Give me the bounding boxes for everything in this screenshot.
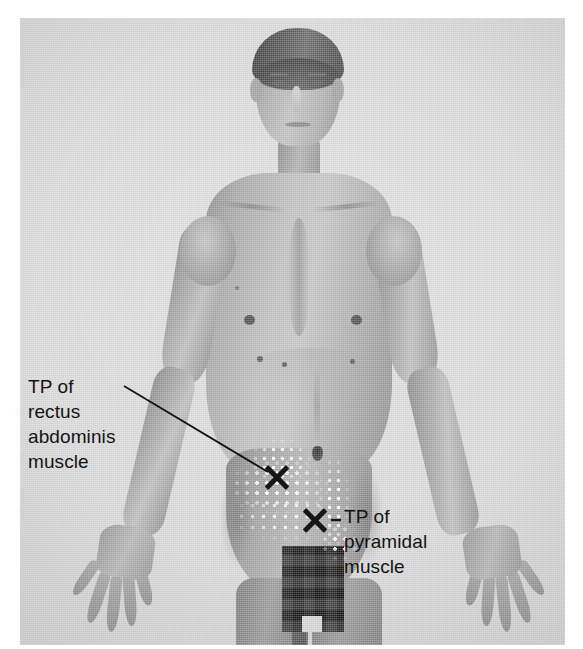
forearm-right <box>403 363 482 538</box>
nipple-left <box>244 315 255 325</box>
sternum-shadow <box>288 218 310 336</box>
censored-region-highlight <box>302 616 322 632</box>
hair <box>252 28 344 90</box>
eyebrow-left <box>270 73 288 76</box>
eye-right <box>309 80 324 86</box>
palm-right <box>461 522 524 581</box>
figure-root: TP of rectus abdominis muscle TP of pyra… <box>0 0 583 649</box>
hip-shadow-right <box>350 470 384 566</box>
nipple-right <box>351 315 362 325</box>
mouth <box>285 122 311 127</box>
subject-body <box>20 18 565 645</box>
finger <box>122 572 138 627</box>
skin-mole <box>282 362 287 367</box>
nose <box>292 86 301 112</box>
hip-shadow-left <box>220 470 254 566</box>
clinical-photograph <box>20 18 565 645</box>
ear-left <box>250 78 262 102</box>
forearm-left <box>119 363 198 538</box>
eyebrow-right <box>308 73 326 76</box>
linea-alba-shading <box>314 368 320 446</box>
skin-mole <box>235 286 239 290</box>
navel <box>312 446 323 461</box>
skin-mole <box>350 359 355 364</box>
skin-mole <box>257 356 263 362</box>
ear-right <box>332 78 344 102</box>
finger <box>480 572 496 627</box>
palm-left <box>95 522 158 581</box>
eye-left <box>272 80 287 86</box>
deltoid-left <box>180 216 236 286</box>
deltoid-right <box>366 216 422 286</box>
